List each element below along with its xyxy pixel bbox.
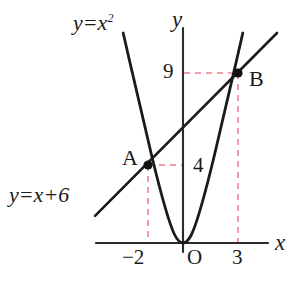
point-b-label: B xyxy=(249,68,264,90)
point-b-marker xyxy=(233,68,242,77)
parabola-equation-text: y=x xyxy=(73,10,107,35)
origin-label: O xyxy=(187,247,202,268)
axes xyxy=(96,28,268,252)
x-tick-negative-two-label: −2 xyxy=(122,247,144,268)
point-a-label: A xyxy=(122,147,138,169)
y-tick-four-label: 4 xyxy=(193,155,204,176)
parabola-exponent: 2 xyxy=(107,11,113,25)
x-axis-label: x xyxy=(275,231,285,254)
point-a-marker xyxy=(143,160,152,169)
y-tick-nine-label: 9 xyxy=(163,61,174,82)
parabola-equation-label: y=x2 xyxy=(73,12,113,34)
line-curve xyxy=(95,33,277,216)
line-equation-label: y=x+6 xyxy=(9,184,69,206)
math-figure: y=x2 y x y=x+6 9 4 −2 3 O A B xyxy=(0,0,304,283)
x-tick-three-label: 3 xyxy=(232,247,243,268)
y-axis-label: y xyxy=(172,8,182,31)
graph-canvas xyxy=(0,0,304,283)
